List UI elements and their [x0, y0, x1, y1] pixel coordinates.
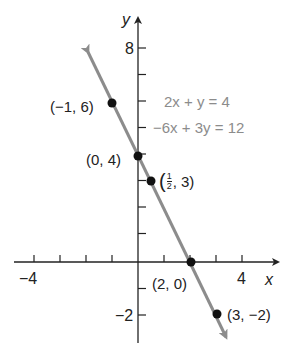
- point-label-neg1-6: (−1, 6): [50, 99, 94, 114]
- y-axis-label: y: [122, 12, 130, 28]
- point-label-0-4: (0, 4): [86, 152, 121, 167]
- point-label-3-neg2: (3, −2): [227, 307, 271, 322]
- x-tick-label-neg4: −4: [19, 271, 37, 287]
- coordinate-plane: [0, 0, 288, 348]
- paren-open: (: [159, 170, 166, 192]
- point-neg1-6: [108, 99, 117, 108]
- point-label-half-3-rest: , 3): [173, 173, 195, 190]
- point-label-2-0: (2, 0): [152, 276, 187, 291]
- y-ticks: [138, 48, 146, 315]
- equation-label-1: 2x + y = 4: [164, 94, 230, 109]
- x-axis-label: x: [265, 272, 273, 288]
- fraction-one-half: 12: [167, 172, 172, 191]
- point-2-0: [187, 258, 196, 267]
- y-tick-label-8: 8: [125, 41, 134, 57]
- point-3-neg2: [213, 310, 222, 319]
- equation-label-2: −6x + 3y = 12: [153, 120, 244, 135]
- point-label-half-3: (12, 3): [159, 171, 194, 191]
- point-0-4: [134, 152, 143, 161]
- point-half-3: [147, 177, 156, 186]
- x-tick-label-4: 4: [237, 271, 246, 287]
- y-tick-label-neg2: −2: [115, 308, 133, 324]
